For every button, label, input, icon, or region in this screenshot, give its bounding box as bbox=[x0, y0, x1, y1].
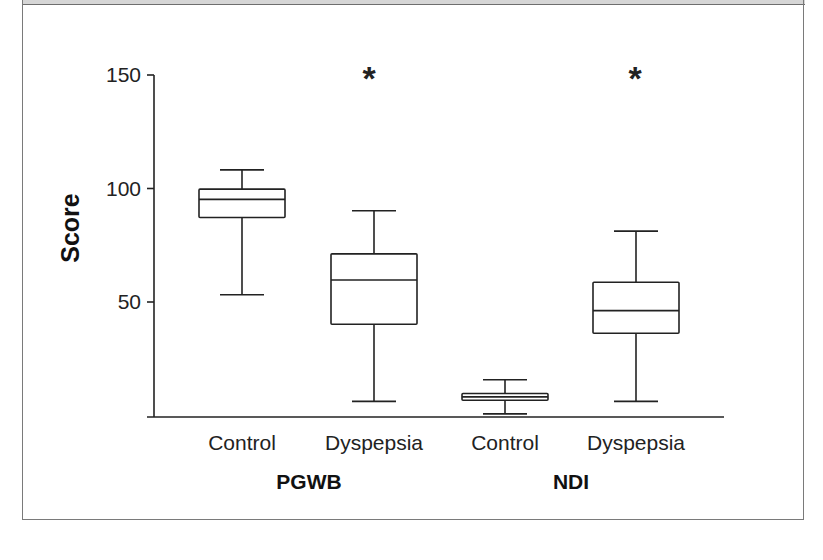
y-tick-label-50: 50 bbox=[118, 290, 141, 313]
group-label-ndi: NDI bbox=[553, 470, 589, 493]
category-label-pgwb-dyspepsia: Dyspepsia bbox=[325, 431, 423, 454]
y-tick-label-150: 150 bbox=[106, 63, 141, 86]
box-ndi-dyspepsia bbox=[593, 282, 679, 333]
box-plot-chart: 150 100 50 Score Control Dyspepsia Contr… bbox=[0, 0, 823, 560]
category-label-pgwb-control: Control bbox=[208, 431, 276, 454]
y-tick-label-100: 100 bbox=[106, 177, 141, 200]
category-label-ndi-dyspepsia: Dyspepsia bbox=[587, 431, 685, 454]
box-pgwb-dyspepsia bbox=[331, 254, 417, 324]
y-axis-title: Score bbox=[56, 193, 84, 263]
significance-marker-ndi: * bbox=[628, 59, 642, 97]
category-label-ndi-control: Control bbox=[471, 431, 539, 454]
y-axis: 150 100 50 bbox=[106, 63, 154, 417]
group-label-pgwb: PGWB bbox=[276, 470, 341, 493]
significance-marker-pgwb: * bbox=[362, 59, 376, 97]
box-pgwb-control bbox=[199, 189, 285, 217]
boxes bbox=[199, 170, 679, 414]
